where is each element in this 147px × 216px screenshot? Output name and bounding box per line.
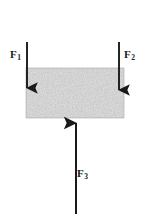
force-symbol-f3: F <box>77 167 84 179</box>
force-subscript-f2: 2 <box>131 53 135 62</box>
force-label-f3: F3 <box>77 168 88 181</box>
force-subscript-f1: 1 <box>17 53 21 62</box>
force-label-f1: F1 <box>10 49 21 62</box>
force-symbol-f2: F <box>124 48 131 60</box>
force-subscript-f3: 3 <box>84 172 88 181</box>
force-symbol-f1: F <box>10 48 17 60</box>
force-label-f2: F2 <box>124 49 135 62</box>
force-diagram-figure: F1 F2 F3 <box>0 0 147 216</box>
force-diagram-canvas <box>0 0 147 216</box>
shaded-block <box>24 66 126 120</box>
